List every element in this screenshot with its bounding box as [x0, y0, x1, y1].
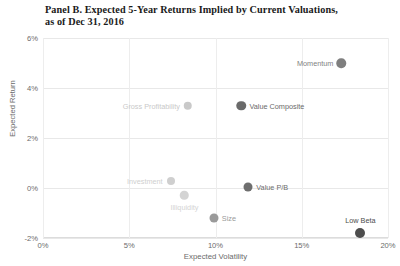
y-tick-label: 0%	[27, 184, 38, 193]
data-point	[180, 191, 189, 200]
data-point	[355, 228, 365, 238]
x-axis-title: Expected Volatility	[43, 252, 388, 261]
chart-title: Panel B. Expected 5-Year Returns Implied…	[45, 4, 375, 29]
y-tick-label: 6%	[27, 34, 38, 43]
data-point	[237, 101, 247, 111]
y-tick-label: 2%	[27, 134, 38, 143]
gridline-vertical	[43, 38, 44, 238]
x-tick-label: 10%	[208, 241, 223, 250]
y-tick-label: 4%	[27, 84, 38, 93]
data-point-label: Gross Profitability	[123, 101, 180, 110]
data-point-label: Value Composite	[249, 101, 304, 110]
x-tick-label: 20%	[380, 241, 395, 250]
gridline-vertical	[302, 38, 303, 238]
data-point	[209, 214, 218, 223]
data-point	[167, 177, 175, 185]
gridline-vertical	[388, 38, 389, 238]
y-axis-tick-labels: 6%4%2%0%-2%	[14, 38, 38, 238]
chart-figure: Panel B. Expected 5-Year Returns Implied…	[0, 0, 400, 266]
x-tick-label: 15%	[294, 241, 309, 250]
data-point	[184, 101, 193, 110]
y-axis-title: Expected Return	[8, 64, 17, 154]
data-point-label: Value P/B	[256, 182, 288, 191]
data-point-label: Investment	[127, 177, 163, 186]
gridline-vertical	[216, 38, 217, 238]
data-point	[244, 182, 253, 191]
data-point-label: Illiquidity	[170, 203, 198, 212]
gridline-vertical	[129, 38, 130, 238]
data-point-label: Size	[222, 214, 236, 223]
y-tick-label: -2%	[24, 234, 38, 243]
gridline-horizontal	[43, 238, 388, 239]
data-point-label: Momentum	[297, 59, 334, 68]
data-point	[337, 58, 347, 68]
x-tick-label: 5%	[124, 241, 135, 250]
data-point-label: Low Beta	[345, 216, 375, 225]
plot-area: MomentumValue CompositeGross Profitabili…	[43, 38, 388, 238]
x-tick-label: 0%	[38, 241, 49, 250]
